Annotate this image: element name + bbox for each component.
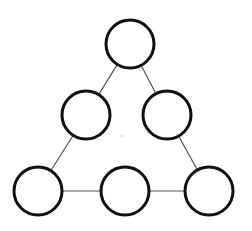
node-bottom-right — [185, 167, 233, 215]
triangle-diagram — [0, 0, 252, 231]
node-bottom-middle — [101, 167, 149, 215]
node-top — [106, 20, 154, 68]
node-middle-right — [143, 91, 191, 139]
node-middle-left — [62, 91, 110, 139]
center-dot — [121, 135, 123, 137]
node-bottom-left — [14, 167, 62, 215]
